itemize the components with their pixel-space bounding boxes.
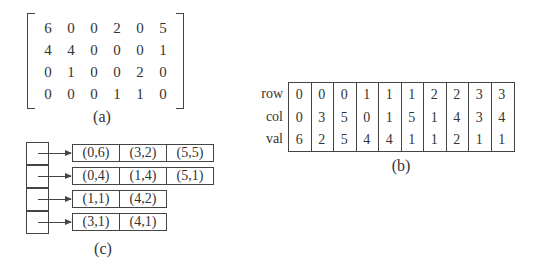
table-cell-col: 3 [311,109,334,127]
table-cell-val: 6 [288,131,311,149]
row-label-col: col [243,109,283,125]
list-entry: (0,4) [73,168,120,184]
list-node-row: (0,4)(1,4)(5,1) [72,167,214,185]
column-divider [423,82,424,151]
column-divider [356,82,357,151]
table-cell-val: 1 [468,131,491,149]
caption-a: (a) [82,108,122,126]
table-cell-row: 3 [468,86,491,104]
list-entry: (3,2) [120,145,167,161]
matrix-cell: 2 [130,63,150,81]
table-cell-row: 0 [333,86,356,104]
matrix-cell: 0 [61,85,81,103]
left-bracket [27,13,35,109]
table-cell-val: 2 [311,131,334,149]
list-entry: (5,1) [167,168,213,184]
list-entry: (0,6) [73,145,120,161]
column-divider [311,82,312,151]
row-label-val: val [243,131,283,147]
matrix-cell: 0 [107,41,127,59]
matrix-cell: 0 [61,19,81,37]
right-bracket [176,13,184,109]
matrix-cell: 5 [153,19,173,37]
table-cell-val: 2 [446,131,469,149]
column-divider [378,82,379,151]
column-divider [491,82,492,151]
table-cell-col: 3 [468,109,491,127]
list-entry: (1,1) [73,191,120,207]
list-entry: (5,5) [167,145,213,161]
table-cell-col: 4 [491,109,514,127]
table-cell-val: 1 [491,131,514,149]
matrix-cell: 0 [84,41,104,59]
matrix-cell: 1 [130,85,150,103]
table-cell-row: 2 [446,86,469,104]
table-cell-col: 5 [401,109,424,127]
table-cell-col: 0 [356,109,379,127]
table-cell-val: 5 [333,131,356,149]
matrix-cell: 6 [38,19,58,37]
matrix-cell: 0 [107,63,127,81]
row-label-row: row [243,86,283,102]
list-node-row: (3,1)(4,1) [72,213,167,231]
table-cell-col: 4 [446,109,469,127]
table-cell-col: 5 [333,109,356,127]
matrix-cell: 1 [61,63,81,81]
matrix-cell: 0 [38,85,58,103]
matrix-cell: 0 [38,63,58,81]
list-entry: (1,4) [120,168,167,184]
table-cell-val: 4 [378,131,401,149]
matrix-cell: 0 [84,63,104,81]
pointer-arrow [38,153,71,154]
column-divider [446,82,447,151]
pointer-arrow [38,176,71,177]
table-cell-col: 1 [423,109,446,127]
matrix-cell: 0 [84,19,104,37]
list-node-row: (0,6)(3,2)(5,5) [72,144,214,162]
table-cell-val: 1 [401,131,424,149]
list-entry: (4,1) [120,214,166,230]
matrix-cell: 0 [84,85,104,103]
table-cell-val: 4 [356,131,379,149]
table-cell-row: 3 [491,86,514,104]
matrix-cell: 0 [153,85,173,103]
matrix-cell: 1 [153,41,173,59]
matrix-cell: 4 [38,41,58,59]
column-divider [333,82,334,151]
caption-b: (b) [381,157,421,175]
list-entry: (3,1) [73,214,120,230]
pointer-arrow [38,222,71,223]
matrix-cell: 2 [107,19,127,37]
table-cell-row: 1 [401,86,424,104]
table-cell-row: 0 [311,86,334,104]
table-cell-row: 1 [356,86,379,104]
table-cell-row: 0 [288,86,311,104]
matrix-cell: 0 [130,19,150,37]
caption-c: (c) [83,240,123,258]
table-cell-col: 1 [378,109,401,127]
table-cell-row: 2 [423,86,446,104]
list-entry: (4,2) [120,191,166,207]
table-cell-val: 1 [423,131,446,149]
list-node-row: (1,1)(4,2) [72,190,167,208]
matrix-cell: 1 [107,85,127,103]
column-divider [401,82,402,151]
matrix-cell: 4 [61,41,81,59]
matrix-cell: 0 [153,63,173,81]
table-cell-row: 1 [378,86,401,104]
column-divider [468,82,469,151]
table-cell-col: 0 [288,109,311,127]
matrix-cell: 0 [130,41,150,59]
pointer-arrow [38,199,71,200]
